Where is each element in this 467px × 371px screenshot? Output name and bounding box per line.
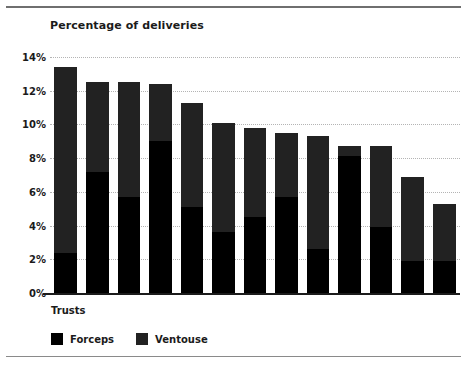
y-axis-tick-labels: 14%12%10%8%6%4%2%0%: [0, 0, 46, 371]
bar-segment-ventouse: [338, 146, 361, 156]
y-axis-tick-label: 8%: [4, 153, 46, 164]
y-axis-tick-label: 12%: [4, 85, 46, 96]
bar-segment-forceps: [181, 207, 204, 293]
bar-segment-ventouse: [181, 103, 204, 208]
y-axis-tick-label: 0%: [4, 288, 46, 299]
gridline: [50, 91, 460, 92]
bar-segment-forceps: [86, 172, 109, 293]
plot-area: [50, 57, 460, 293]
bar-segment-forceps: [118, 197, 141, 293]
bar-stack: [212, 123, 235, 293]
bar-segment-forceps: [433, 261, 456, 293]
bar-segment-forceps: [212, 232, 235, 293]
y-axis-tick-label: 14%: [4, 52, 46, 63]
bottom-divider-rule: [6, 356, 461, 357]
bar-stack: [338, 146, 361, 293]
bar-segment-ventouse: [433, 204, 456, 261]
bar-stack: [244, 128, 267, 293]
bar-stack: [118, 82, 141, 293]
bar-stack: [54, 67, 77, 293]
y-axis-tick-label: 6%: [4, 186, 46, 197]
x-axis-label: Trusts: [51, 305, 85, 316]
bar-segment-ventouse: [86, 82, 109, 171]
bar-segment-forceps: [338, 156, 361, 293]
legend-swatch-icon: [51, 333, 63, 345]
legend-label: Forceps: [70, 334, 114, 345]
gridline: [50, 57, 460, 58]
bar-segment-forceps: [275, 197, 298, 293]
bar-segment-ventouse: [401, 177, 424, 261]
bar-stack: [307, 136, 330, 293]
bar-segment-ventouse: [244, 128, 267, 217]
bar-segment-ventouse: [275, 133, 298, 197]
bar-stack: [181, 103, 204, 293]
y-axis-tick-label: 4%: [4, 220, 46, 231]
bar-segment-ventouse: [118, 82, 141, 197]
bar-segment-forceps: [401, 261, 424, 293]
bar-segment-ventouse: [54, 67, 77, 252]
x-axis-baseline: [43, 293, 460, 295]
bar-stack: [86, 82, 109, 293]
chart-title: Percentage of deliveries: [50, 19, 204, 32]
chart-legend: ForcepsVentouse: [51, 333, 208, 345]
legend-item[interactable]: Ventouse: [136, 333, 208, 345]
gridline: [50, 124, 460, 125]
y-axis-tick-label: 2%: [4, 254, 46, 265]
legend-swatch-icon: [136, 333, 148, 345]
bar-stack: [149, 84, 172, 293]
bar-stack: [275, 133, 298, 293]
chart-figure: Percentage of deliveries 14%12%10%8%6%4%…: [0, 0, 467, 371]
bar-segment-ventouse: [149, 84, 172, 141]
bar-stack: [401, 177, 424, 293]
legend-label: Ventouse: [155, 334, 208, 345]
y-axis-tick-label: 10%: [4, 119, 46, 130]
bar-segment-ventouse: [212, 123, 235, 233]
bar-segment-forceps: [149, 141, 172, 293]
bar-segment-forceps: [54, 253, 77, 293]
bar-stack: [433, 204, 456, 293]
bar-segment-ventouse: [370, 146, 393, 227]
bar-stack: [370, 146, 393, 293]
legend-item[interactable]: Forceps: [51, 333, 114, 345]
bar-segment-forceps: [370, 227, 393, 293]
top-divider-rule: [6, 6, 461, 8]
bar-segment-ventouse: [307, 136, 330, 249]
bar-segment-forceps: [307, 249, 330, 293]
bar-segment-forceps: [244, 217, 267, 293]
